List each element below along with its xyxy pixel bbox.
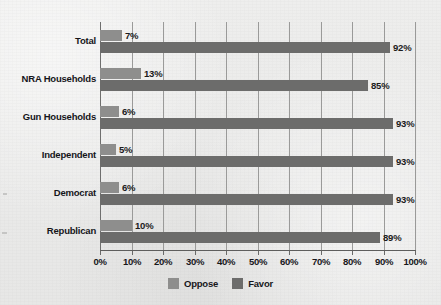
plot-area: 7%92%13%85%6%93%5%93%6%93%10%89% [100, 22, 415, 250]
y-axis-label-independent: Independent [0, 149, 96, 160]
legend-item-oppose[interactable]: Oppose [168, 278, 218, 289]
x-tick-label-60%: 60% [280, 256, 298, 267]
bar-favor-independent[interactable] [100, 156, 393, 167]
y-axis-label-nra-households: NRA Households [0, 73, 96, 84]
x-tick-mark [100, 251, 101, 255]
bar-favor-total[interactable] [100, 42, 390, 53]
chart-legend: Oppose Favor [0, 278, 441, 289]
bar-value-label: 5% [119, 144, 132, 155]
bar-favor-republican[interactable] [100, 232, 380, 243]
x-tick-label-10%: 10% [123, 256, 141, 267]
bar-oppose-total[interactable] [100, 30, 122, 41]
bar-value-label: 13% [144, 68, 162, 79]
x-tick-mark [415, 251, 416, 255]
x-tick-mark [163, 251, 164, 255]
x-tick-label-40%: 40% [217, 256, 235, 267]
x-tick-mark [195, 251, 196, 255]
bar-favor-gun-households[interactable] [100, 118, 393, 129]
y-axis-label-republican: Republican [0, 225, 96, 236]
bar-value-label: 92% [393, 42, 411, 53]
x-tick-label-80%: 80% [343, 256, 361, 267]
x-tick-mark [226, 251, 227, 255]
x-tick-label-30%: 30% [186, 256, 204, 267]
gridline-100% [415, 22, 416, 250]
bar-value-label: 10% [135, 220, 153, 231]
x-tick-label-100%: 100% [403, 256, 426, 267]
x-tick-mark [132, 251, 133, 255]
y-axis-label-gun-households: Gun Households [0, 111, 96, 122]
bar-oppose-democrat[interactable] [100, 182, 119, 193]
y-axis-label-democrat: Democrat [0, 187, 96, 198]
bar-value-label: 6% [122, 182, 135, 193]
bar-value-label: 7% [125, 30, 138, 41]
legend-label-favor: Favor [248, 278, 273, 289]
bar-oppose-republican[interactable] [100, 220, 132, 231]
bar-oppose-gun-households[interactable] [100, 106, 119, 117]
chart-page: TotalNRA HouseholdsGun HouseholdsIndepen… [0, 0, 441, 305]
bar-oppose-nra-households[interactable] [100, 68, 141, 79]
legend-swatch-favor-icon [232, 278, 243, 289]
x-tick-label-20%: 20% [154, 256, 172, 267]
x-tick-label-70%: 70% [312, 256, 330, 267]
bar-group: 7%92% [100, 22, 415, 60]
bar-group: 6%93% [100, 98, 415, 136]
bar-value-label: 93% [396, 118, 414, 129]
legend-label-oppose: Oppose [184, 278, 218, 289]
bar-group: 13%85% [100, 60, 415, 98]
x-tick-label-50%: 50% [249, 256, 267, 267]
x-tick-label-0%: 0% [93, 256, 106, 267]
x-tick-mark [352, 251, 353, 255]
x-tick-mark [289, 251, 290, 255]
bar-value-label: 85% [371, 80, 389, 91]
y-axis-category-labels: TotalNRA HouseholdsGun HouseholdsIndepen… [0, 22, 96, 250]
bar-group: 5%93% [100, 136, 415, 174]
bar-oppose-independent[interactable] [100, 144, 116, 155]
bar-value-label: 93% [396, 194, 414, 205]
bar-value-label: 93% [396, 156, 414, 167]
y-axis-label-total: Total [0, 35, 96, 46]
bar-favor-nra-households[interactable] [100, 80, 368, 91]
bar-favor-democrat[interactable] [100, 194, 393, 205]
legend-item-favor[interactable]: Favor [232, 278, 273, 289]
legend-swatch-oppose-icon [168, 278, 179, 289]
bar-value-label: 89% [383, 232, 401, 243]
bar-group: 10%89% [100, 212, 415, 250]
x-tick-mark [258, 251, 259, 255]
bar-value-label: 6% [122, 106, 135, 117]
x-tick-mark [384, 251, 385, 255]
x-tick-mark [321, 251, 322, 255]
bar-group: 6%93% [100, 174, 415, 212]
x-tick-label-90%: 90% [375, 256, 393, 267]
